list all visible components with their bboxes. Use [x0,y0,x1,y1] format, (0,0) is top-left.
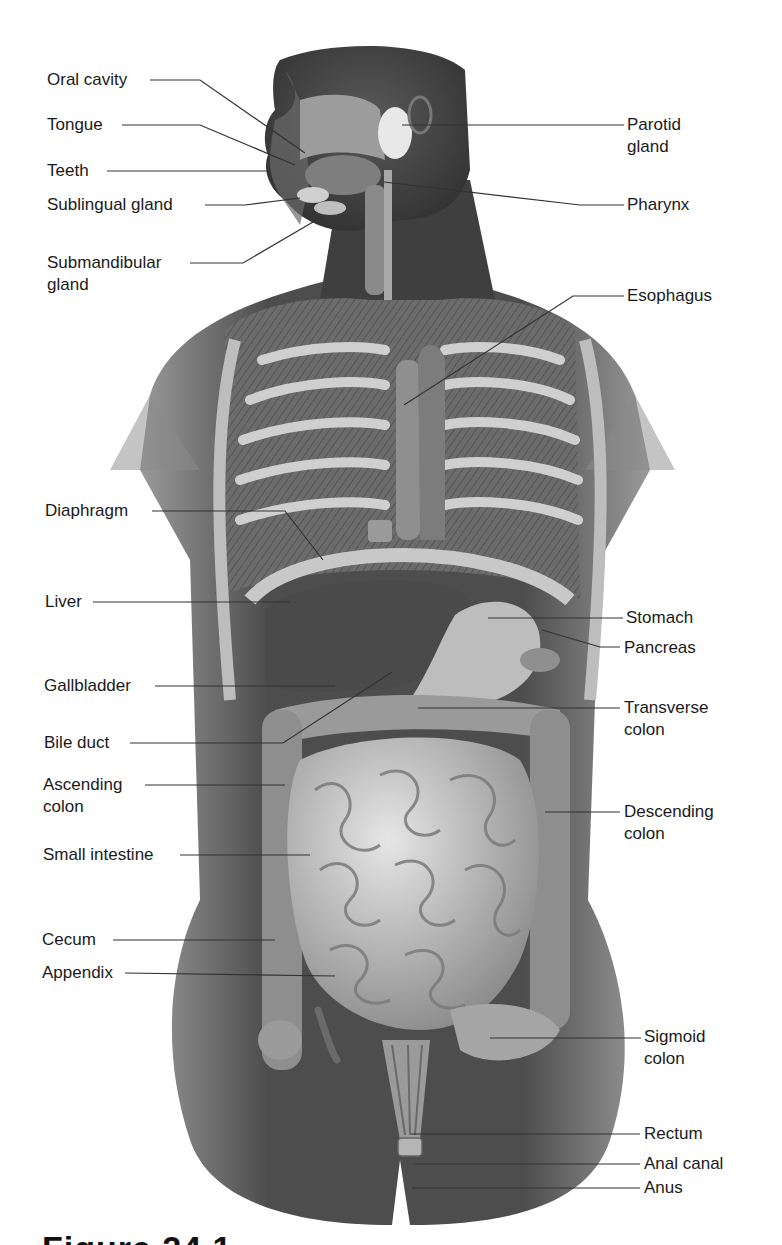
label-cecum: Cecum [42,929,96,951]
esophagus-shape [396,360,420,540]
cecum-shape [258,1020,302,1060]
label-rectum: Rectum [644,1123,703,1145]
label-ascending-colon: Ascending colon [43,774,122,818]
figure-caption: Figure 24.1 [42,1228,233,1245]
label-tongue: Tongue [47,114,103,136]
label-parotid-gland: Parotid gland [627,114,681,158]
label-sigmoid-colon: Sigmoid colon [644,1026,705,1070]
label-teeth: Teeth [47,160,89,182]
label-bile-duct: Bile duct [44,732,109,754]
label-line-1: Transverse [624,697,708,719]
label-submandibular-gland: Submandibular gland [47,252,161,296]
label-line-1: Submandibular [47,252,161,274]
label-line-2: colon [624,823,714,845]
label-line-2: gland [47,274,161,296]
label-esophagus: Esophagus [627,285,712,307]
small-intestine-shape [287,738,538,1031]
label-line-2: colon [624,719,708,741]
label-gallbladder: Gallbladder [44,675,131,697]
submandibular-gland-shape [314,201,346,215]
label-stomach: Stomach [626,607,693,629]
digestive-system-figure: Oral cavity Tongue Teeth Sublingual glan… [0,0,782,1245]
label-oral-cavity: Oral cavity [47,69,127,91]
label-line-2: colon [43,796,122,818]
parotid-gland-shape [378,107,412,159]
label-line-2: gland [627,136,681,158]
label-line-1: Descending [624,801,714,823]
label-appendix: Appendix [42,962,113,984]
label-liver: Liver [45,591,82,613]
label-transverse-colon: Transverse colon [624,697,708,741]
label-line-1: Parotid [627,114,681,136]
label-descending-colon: Descending colon [624,801,714,845]
label-diaphragm: Diaphragm [45,500,128,522]
label-pancreas: Pancreas [624,637,696,659]
label-line-1: Ascending [43,774,122,796]
label-pharynx: Pharynx [627,194,689,216]
label-sublingual-gland: Sublingual gland [47,194,173,216]
sublingual-gland-shape [297,187,329,203]
label-line-1: Sigmoid [644,1026,705,1048]
label-line-2: colon [644,1048,705,1070]
label-small-intestine: Small intestine [43,844,154,866]
label-anal-canal: Anal canal [644,1153,723,1175]
label-anus: Anus [644,1177,683,1199]
